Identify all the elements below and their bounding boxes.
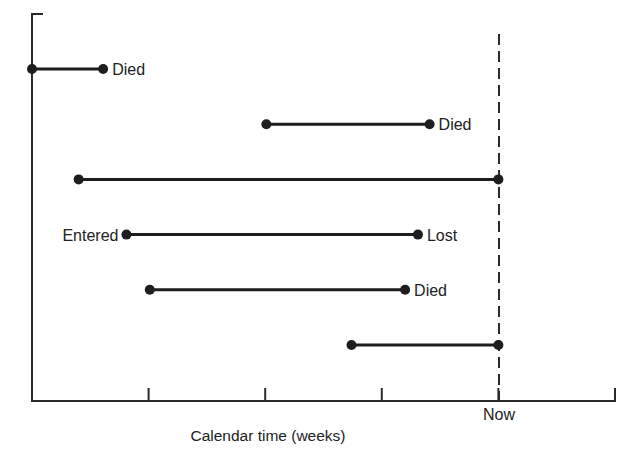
subject-row: Died — [145, 282, 447, 299]
exit-point-icon — [493, 340, 503, 350]
subject-row — [74, 174, 504, 184]
now-label: Now — [483, 406, 515, 423]
entry-point-icon — [261, 119, 271, 129]
subject-row: EnteredLost — [62, 227, 457, 244]
subject-row: Died — [27, 61, 145, 78]
x-axis-ticks — [149, 388, 615, 401]
exit-point-icon — [493, 174, 503, 184]
entry-point-icon — [27, 64, 37, 74]
outcome-label: Lost — [427, 227, 458, 244]
entry-point-icon — [346, 340, 356, 350]
exit-point-icon — [98, 64, 108, 74]
subject-row — [346, 340, 503, 350]
entry-point-icon — [121, 230, 131, 240]
x-axis-title: Calendar time (weeks) — [190, 427, 345, 444]
outcome-label: Died — [112, 61, 145, 78]
entry-point-icon — [74, 174, 84, 184]
start-label: Entered — [62, 227, 118, 244]
subject-row: Died — [261, 116, 471, 133]
follow-up-diagram: Now Calendar time (weeks) DiedDiedEntere… — [0, 0, 633, 450]
outcome-label: Died — [439, 116, 472, 133]
exit-point-icon — [413, 230, 423, 240]
subject-segments: DiedDiedEnteredLostDied — [27, 61, 503, 350]
exit-point-icon — [425, 119, 435, 129]
exit-point-icon — [400, 285, 410, 295]
entry-point-icon — [145, 285, 155, 295]
outcome-label: Died — [414, 282, 447, 299]
